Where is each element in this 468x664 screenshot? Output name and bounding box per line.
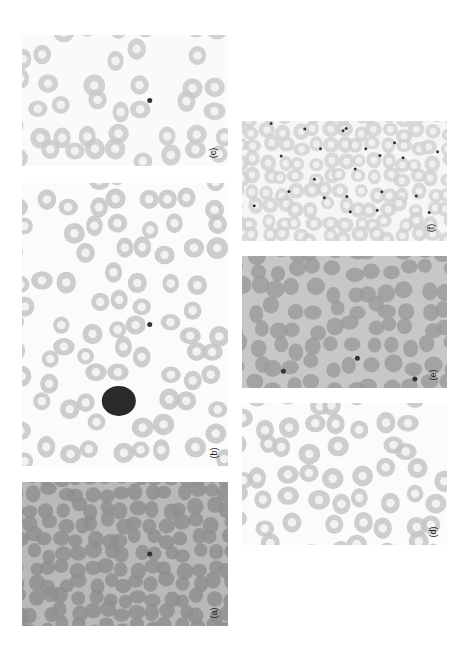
panel-label-d: (d)	[428, 527, 438, 538]
panel-label-e: (e)	[428, 370, 438, 381]
panel-label-a: (a)	[209, 608, 219, 619]
panel-label-b: (b)	[209, 448, 219, 459]
micrograph-panel-e	[242, 256, 447, 388]
micrograph-panel-b	[22, 183, 228, 466]
micrograph-panel-c	[22, 35, 228, 166]
panel-label-c: (c)	[208, 148, 218, 159]
panel-label-f: (f)	[426, 224, 436, 233]
micrograph-panel-a	[22, 482, 228, 626]
micrograph-panel-f	[242, 121, 447, 241]
micrograph-panel-d	[242, 403, 447, 545]
